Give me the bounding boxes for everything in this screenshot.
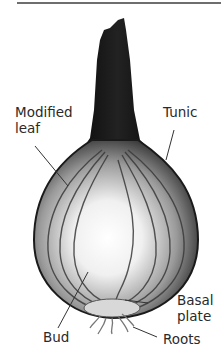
- bulb-body: [34, 140, 198, 318]
- label-tunic: Tunic: [163, 104, 197, 120]
- basal-plate: [84, 299, 140, 317]
- leader-roots: [133, 327, 157, 337]
- label-modified-leaf-line2: leaf: [15, 120, 40, 136]
- label-modified-leaf-line1: Modified: [15, 104, 73, 120]
- label-bud: Bud: [43, 329, 69, 345]
- label-basal-plate-line2: plate: [177, 308, 211, 324]
- leader-tunic: [166, 130, 174, 160]
- label-basal-plate-line1: Basal: [177, 292, 214, 308]
- label-roots: Roots: [163, 331, 201, 347]
